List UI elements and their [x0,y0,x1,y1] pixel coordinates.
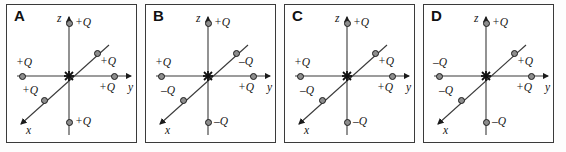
axis-label-z: z [474,13,478,25]
charge-x-lower-left-label: –Q [161,85,175,97]
charge-x-upper-right-label: +Q [100,56,116,68]
panel-d: Dzyx+Q+Q–Q–Q+Q–Q [423,4,554,143]
axis-label-x: x [304,125,309,137]
axis-label-y: y [128,82,133,94]
charge-y-left-label: +Q [294,57,310,69]
charge-z-top [205,20,212,27]
charge-y-right-label: +Q [377,82,393,94]
charge-x-lower-left-label: –Q [439,85,453,97]
charge-y-right-label: +Q [99,82,115,94]
charge-z-top [483,20,490,27]
charge-z-top [66,20,73,27]
charge-y-right-label: +Q [516,82,532,94]
charge-z-bottom-label: –Q [353,116,367,128]
charge-x-lower-left [319,97,326,104]
charge-z-bottom-label: –Q [214,116,228,128]
charge-z-top-label: +Q [75,17,91,29]
axis-label-z: z [196,13,200,25]
charge-y-right [111,73,118,80]
charge-x-lower-left-label: –Q [300,85,314,97]
charge-y-left-label: +Q [155,57,171,69]
charge-y-left [297,73,304,80]
charge-y-left-label: +Q [16,57,32,69]
charge-x-lower-left-label: +Q [22,85,38,97]
axis-label-z: z [57,13,61,25]
axis-label-z: z [335,13,339,25]
charge-x-lower-left [458,97,465,104]
charge-y-left [436,73,443,80]
panel-b: Bzyx+Q–Q+Q–Q+Q–Q [145,4,276,143]
axis-label-y: y [545,82,550,94]
charge-x-upper-right-label: –Q [239,56,253,68]
charge-z-bottom-label: –Q [492,116,506,128]
charge-z-top [344,20,351,27]
charge-z-bottom [344,119,351,126]
axis-label-y: y [406,82,411,94]
axis-label-x: x [26,125,31,137]
charge-x-lower-left [41,97,48,104]
charge-z-top-label: +Q [492,17,508,29]
charge-z-bottom [66,119,73,126]
charge-x-lower-left [180,97,187,104]
axis-label-y: y [267,82,272,94]
charge-y-right [528,73,535,80]
charge-x-upper-right-label: +Q [517,56,533,68]
charge-y-left [19,73,26,80]
charge-z-bottom [205,119,212,126]
charge-y-right [389,73,396,80]
charge-z-bottom [483,119,490,126]
charge-z-top-label: +Q [353,17,369,29]
axis-label-x: x [165,125,170,137]
charge-x-upper-right-label: +Q [378,56,394,68]
charge-y-right [250,73,257,80]
charge-configuration-figure: Azyx+Q+Q+Q+Q+Q+QBzyx+Q–Q+Q–Q+Q–QCzyx+Q+Q… [0,0,566,152]
charge-z-top-label: +Q [214,17,230,29]
charge-y-right-label: +Q [238,82,254,94]
axis-label-x: x [443,125,448,137]
panel-a: Azyx+Q+Q+Q+Q+Q+Q [6,4,137,143]
charge-z-bottom-label: +Q [75,116,91,128]
panel-c: Czyx+Q+Q+Q–Q+Q–Q [284,4,415,143]
charge-y-left-label: –Q [433,57,447,69]
charge-y-left [158,73,165,80]
